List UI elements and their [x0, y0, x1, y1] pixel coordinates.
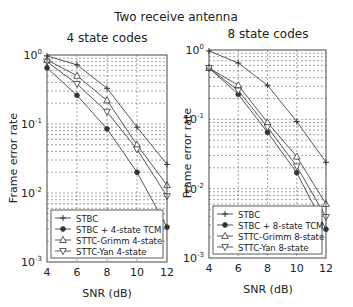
chart-title: 4 state codes: [67, 31, 148, 45]
legend-label: STBC: [238, 210, 260, 220]
x-tick-label: 4: [44, 266, 51, 279]
legend-label: STBC: [76, 214, 98, 224]
x-tick-label: 8: [264, 262, 271, 275]
chart-8-state: 8 state codes SNR (dB) Frame error rate …: [181, 27, 333, 296]
y-tick-label: 10-2: [21, 186, 42, 200]
y-tick-label: 10-1: [183, 112, 204, 126]
y-axis-label: Frame error rate: [7, 113, 20, 203]
y-tick-label: 10-2: [183, 182, 204, 196]
y-tick-label: 10-1: [21, 117, 42, 131]
y-tick-label: 10-3: [21, 255, 42, 269]
y-tick-label: 100: [186, 43, 204, 57]
y-tick-label: 10-3: [183, 251, 204, 265]
x-axis-label: SNR (dB): [243, 283, 292, 296]
legend-label: STTC-Yan 8-state: [238, 243, 308, 253]
legend: STBCSTBC + 8-state TCMSTTC-Grimm 8-state…: [213, 206, 324, 254]
x-tick-label: 8: [104, 266, 111, 279]
chart-title: 8 state codes: [228, 27, 309, 41]
legend: STBCSTBC + 4-state TCMSTTC-Grimm 4-state…: [51, 210, 163, 258]
x-tick-label: 10: [130, 266, 144, 279]
x-tick-label: 12: [319, 262, 333, 275]
legend-label: STBC + 4-state TCM: [76, 225, 161, 235]
x-tick-label: 12: [160, 266, 174, 279]
y-tick-label: 100: [24, 48, 42, 62]
x-tick-label: 4: [206, 262, 213, 275]
legend-label: STTC-Grimm 4-state: [76, 236, 162, 246]
figure-suptitle: Two receive antenna: [113, 10, 238, 24]
x-tick-label: 6: [74, 266, 81, 279]
x-tick-label: 6: [235, 262, 242, 275]
x-tick-label: 10: [290, 262, 304, 275]
legend-label: STTC-Grimm 8-state: [238, 232, 324, 242]
chart-4-state: 4 state codes SNR (dB) Frame error rate …: [7, 31, 174, 300]
figure: Two receive antenna 4 state codes SNR (d…: [0, 0, 353, 307]
x-axis-label: SNR (dB): [82, 287, 131, 300]
legend-label: STBC + 8-state TCM: [238, 221, 323, 231]
legend-label: STTC-Yan 4-state: [76, 247, 146, 257]
